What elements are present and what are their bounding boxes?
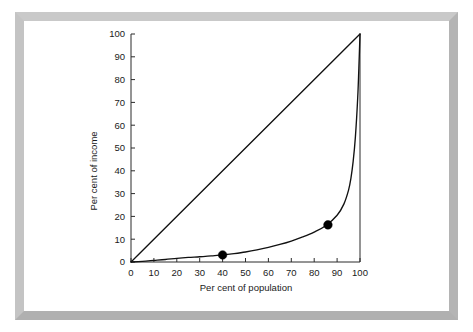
screenshot-root: Per cent of income Per cent of populatio… — [0, 0, 473, 332]
x-tick-label: 20 — [172, 267, 183, 278]
y-tick-label: 100 — [109, 28, 125, 39]
y-tick-label: 10 — [114, 234, 125, 245]
x-tick-label: 70 — [286, 267, 297, 278]
x-tick-label: 50 — [240, 267, 251, 278]
chart-canvas: Per cent of income Per cent of populatio… — [24, 21, 449, 311]
data-point-marker — [324, 221, 333, 230]
x-tick-label: 10 — [149, 267, 160, 278]
x-axis-title: Per cent of population — [200, 282, 292, 293]
x-tick-label: 60 — [263, 267, 274, 278]
lorenz-curve-chart: Per cent of income Per cent of populatio… — [24, 21, 449, 311]
x-tick-label: 0 — [128, 267, 133, 278]
x-tick-label: 100 — [352, 267, 368, 278]
x-axis-ticks: 0102030405060708090100 — [128, 258, 368, 278]
y-tick-label: 60 — [114, 120, 125, 131]
y-axis-title: Per cent of income — [88, 131, 99, 210]
data-point-marker — [218, 251, 227, 260]
y-tick-label: 0 — [120, 256, 125, 267]
y-tick-label: 50 — [114, 142, 125, 153]
y-tick-label: 80 — [114, 74, 125, 85]
y-tick-label: 20 — [114, 211, 125, 222]
y-tick-label: 70 — [114, 97, 125, 108]
y-tick-label: 90 — [114, 51, 125, 62]
x-tick-label: 40 — [217, 267, 228, 278]
x-tick-label: 90 — [332, 267, 343, 278]
y-tick-label: 40 — [114, 165, 125, 176]
x-tick-label: 30 — [194, 267, 205, 278]
y-tick-label: 30 — [114, 188, 125, 199]
x-tick-label: 80 — [309, 267, 320, 278]
